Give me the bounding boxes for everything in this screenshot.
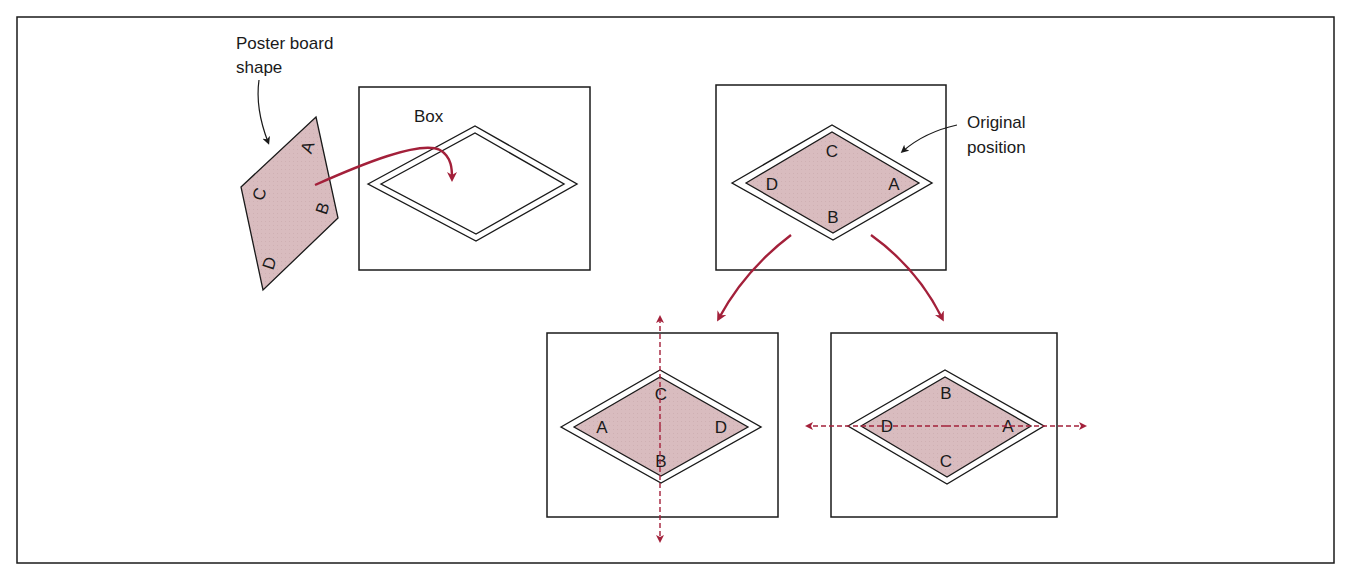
flip-vertical-vertex-left: A xyxy=(596,418,608,437)
poster-label-pointer-arrow xyxy=(258,80,268,142)
poster-board-label-line2: shape xyxy=(236,58,282,77)
flip-horizontal-vertex-bottom: C xyxy=(940,452,952,471)
original-vertex-top: C xyxy=(826,142,838,161)
original-position-label-line2: position xyxy=(967,138,1026,157)
flip-vertical-vertex-right: D xyxy=(715,418,727,437)
box-flip-vertical-group: C A D B xyxy=(547,318,778,540)
original-vertex-left: D xyxy=(766,175,778,194)
box-empty-group: Box xyxy=(359,87,590,270)
box-label: Box xyxy=(414,107,444,126)
original-position-label-line1: Original xyxy=(967,113,1026,132)
original-vertex-bottom: B xyxy=(827,208,838,227)
diagram-canvas: Poster board shape A B C D Box C D A B O… xyxy=(0,0,1354,581)
flip-vertical-vertex-bottom: B xyxy=(655,452,666,471)
poster-board-label-line1: Poster board xyxy=(236,34,333,53)
original-vertex-right: A xyxy=(888,175,900,194)
poster-board-group: Poster board shape A B C D xyxy=(236,34,338,290)
flip-horizontal-vertex-top: B xyxy=(940,384,951,403)
box-original-group: C D A B xyxy=(716,85,946,270)
flip-vertical-vertex-top: C xyxy=(655,385,667,404)
box-flip-horizontal-group: B D A C xyxy=(808,333,1084,517)
